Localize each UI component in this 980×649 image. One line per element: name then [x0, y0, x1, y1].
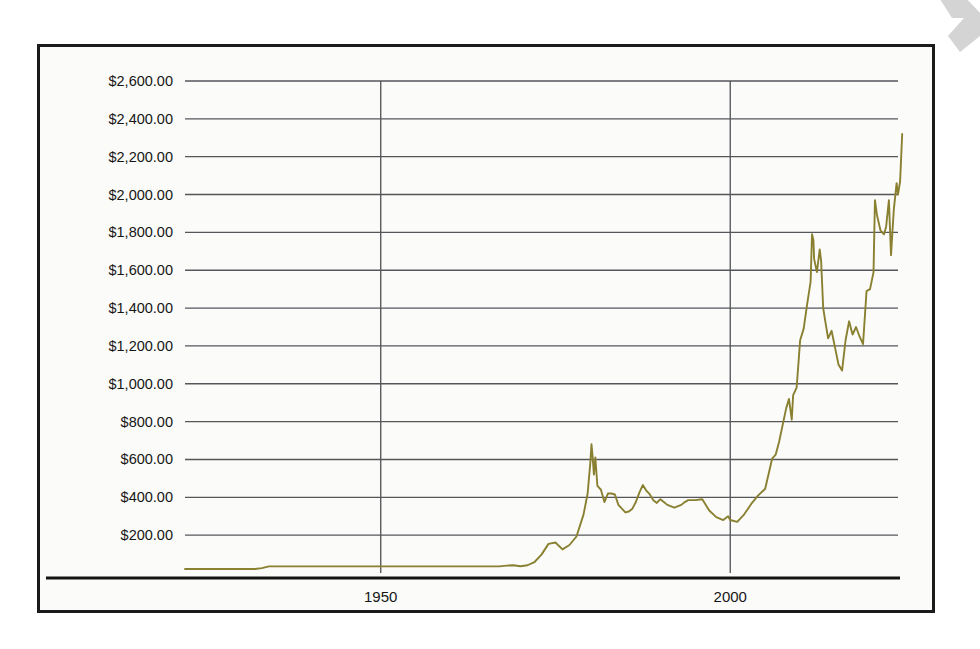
y-axis-tick-labels-group: $2,600.00$2,400.00$2,200.00$2,000.00$1,8…	[108, 73, 173, 543]
y-tick-label: $1,600.00	[108, 262, 173, 278]
chart-frame: $2,600.00$2,400.00$2,200.00$2,000.00$1,8…	[37, 44, 935, 613]
x-gridlines-group	[381, 81, 731, 573]
gold-price-series-line	[185, 134, 902, 569]
y-tick-label: $1,000.00	[108, 376, 173, 392]
x-tick-label: 1950	[364, 588, 397, 605]
y-tick-label: $200.00	[121, 527, 173, 543]
gold-price-line-chart: $2,600.00$2,400.00$2,200.00$2,000.00$1,8…	[40, 47, 932, 610]
plot-area: $2,600.00$2,400.00$2,200.00$2,000.00$1,8…	[40, 47, 932, 610]
x-tick-label: 2000	[714, 588, 747, 605]
y-tick-label: $2,600.00	[108, 73, 173, 89]
y-gridlines-group	[185, 81, 898, 535]
y-tick-label: $1,200.00	[108, 338, 173, 354]
y-tick-label: $2,000.00	[108, 187, 173, 203]
y-tick-label: $400.00	[121, 489, 173, 505]
y-tick-label: $600.00	[121, 451, 173, 467]
y-tick-label: $2,200.00	[108, 149, 173, 165]
x-axis-tick-labels-group: 19502000	[364, 588, 747, 605]
y-tick-label: $2,400.00	[108, 111, 173, 127]
chart-page: $2,600.00$2,400.00$2,200.00$2,000.00$1,8…	[0, 0, 980, 649]
y-tick-label: $1,400.00	[108, 300, 173, 316]
y-tick-label: $800.00	[121, 414, 173, 430]
y-tick-label: $1,800.00	[108, 224, 173, 240]
